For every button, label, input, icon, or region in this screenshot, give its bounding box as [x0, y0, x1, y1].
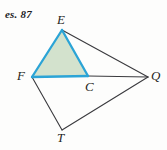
shaded-triangle-EFC: [32, 30, 88, 77]
geometry-diagram: [0, 0, 167, 150]
vertex-label-C: C: [85, 80, 94, 93]
vertex-label-F: F: [17, 69, 25, 82]
segment-F-T: [32, 77, 62, 130]
geometry-figure: es. 87 E F C Q T: [0, 0, 167, 150]
vertex-label-Q: Q: [151, 69, 160, 82]
segment-T-Q: [62, 77, 148, 130]
segment-F-C: [32, 76, 88, 77]
vertex-label-E: E: [57, 13, 65, 26]
segment-C-Q: [88, 76, 148, 77]
vertex-label-T: T: [57, 131, 64, 144]
